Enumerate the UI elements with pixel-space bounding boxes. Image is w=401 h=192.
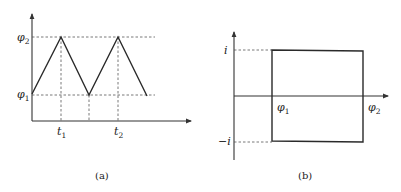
label-t2: t2 bbox=[114, 125, 123, 140]
caption-b: (b) bbox=[298, 170, 312, 181]
panel-a: φ2 φ1 t1 t2 (a) bbox=[17, 14, 191, 181]
label-neg-i: −i bbox=[218, 135, 231, 148]
label-i: i bbox=[224, 44, 228, 57]
figure: φ2 φ1 t1 t2 (a) i −i φ1 φ2 (b) bbox=[0, 0, 401, 192]
label-phi1: φ1 bbox=[17, 88, 29, 103]
label-phi2-b: φ2 bbox=[368, 101, 381, 116]
caption-a: (a) bbox=[95, 170, 109, 181]
triangle-waveform bbox=[32, 37, 147, 96]
label-phi2: φ2 bbox=[17, 31, 30, 46]
label-t1: t1 bbox=[57, 125, 66, 140]
label-phi1-b: φ1 bbox=[277, 101, 289, 116]
panel-b: i −i φ1 φ2 (b) bbox=[218, 32, 388, 181]
